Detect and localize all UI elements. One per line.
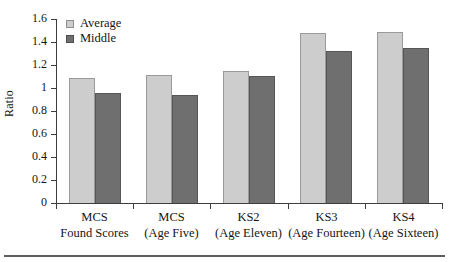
x-axis-line xyxy=(56,203,443,204)
y-tick-label: 0.2 xyxy=(32,172,47,187)
y-tick-label: 0.6 xyxy=(32,126,47,141)
x-category-line2: (Age Five) xyxy=(133,225,210,241)
bar-middle-3 xyxy=(249,76,275,203)
bar-chart-figure: Ratio 00.20.40.60.811.21.41.6 Average Mi… xyxy=(0,0,449,262)
x-axis-category-labels: MCSFound ScoresMCS(Age Five)KS2(Age Elev… xyxy=(56,209,443,249)
x-category-line1: KS2 xyxy=(237,210,259,224)
bar-middle-5 xyxy=(403,48,429,203)
y-tick-label: 0 xyxy=(41,195,47,210)
x-category-line2: Found Scores xyxy=(56,225,133,241)
legend-label-average: Average xyxy=(80,16,121,31)
y-tick-1.2: 1.2 xyxy=(56,65,57,66)
y-tick-label: 0.8 xyxy=(32,103,47,118)
legend-label-middle: Middle xyxy=(80,31,116,46)
y-tick-1: 1 xyxy=(56,88,57,89)
y-tick-mark xyxy=(51,42,57,43)
bar-average-3 xyxy=(223,71,249,203)
x-category-line2: (Age Eleven) xyxy=(210,225,287,241)
y-tick-label: 1.4 xyxy=(32,34,47,49)
plot-area: 00.20.40.60.811.21.41.6 xyxy=(56,19,442,203)
x-category-line1: KS3 xyxy=(315,210,337,224)
y-tick-1.4: 1.4 xyxy=(56,42,57,43)
bottom-divider-rule xyxy=(4,255,445,257)
y-tick-0.6: 0.6 xyxy=(56,134,57,135)
y-tick-mark xyxy=(51,180,57,181)
x-category-line1: MCS xyxy=(81,210,107,224)
bar-average-5 xyxy=(377,32,403,203)
x-category-line2: (Age Fourteen) xyxy=(288,225,365,241)
y-tick-label: 0.4 xyxy=(32,149,47,164)
bar-average-2 xyxy=(146,75,172,203)
bar-average-4 xyxy=(300,33,326,203)
y-tick-mark xyxy=(51,157,57,158)
y-tick-mark xyxy=(51,19,57,20)
legend-swatch-average-icon xyxy=(66,20,74,28)
x-category-label-2: MCS(Age Five) xyxy=(133,209,210,241)
y-tick-mark xyxy=(51,65,57,66)
y-tick-0.4: 0.4 xyxy=(56,157,57,158)
x-category-line2: (Age Sixteen) xyxy=(365,225,442,241)
bar-middle-2 xyxy=(172,95,198,203)
y-tick-label: 1.2 xyxy=(32,57,47,72)
bar-middle-1 xyxy=(95,93,121,203)
y-tick-0.8: 0.8 xyxy=(56,111,57,112)
y-tick-mark xyxy=(51,88,57,89)
x-category-label-4: KS3(Age Fourteen) xyxy=(288,209,365,241)
bar-average-1 xyxy=(69,78,95,203)
y-tick-1.6: 1.6 xyxy=(56,19,57,20)
y-tick-mark xyxy=(51,134,57,135)
legend-swatch-middle-icon xyxy=(66,35,74,43)
y-tick-label: 1.6 xyxy=(32,11,47,26)
x-category-label-5: KS4(Age Sixteen) xyxy=(365,209,442,241)
x-category-label-1: MCSFound Scores xyxy=(56,209,133,241)
y-tick-0.2: 0.2 xyxy=(56,180,57,181)
legend-item-average: Average xyxy=(66,16,121,31)
chart-legend: Average Middle xyxy=(66,16,121,46)
x-category-line1: KS4 xyxy=(392,210,414,224)
y-tick-mark xyxy=(51,111,57,112)
y-axis-title: Ratio xyxy=(2,78,17,130)
x-category-label-3: KS2(Age Eleven) xyxy=(210,209,287,241)
legend-item-middle: Middle xyxy=(66,31,121,46)
y-tick-label: 1 xyxy=(41,80,47,95)
bar-middle-4 xyxy=(326,51,352,203)
x-category-line1: MCS xyxy=(158,210,184,224)
